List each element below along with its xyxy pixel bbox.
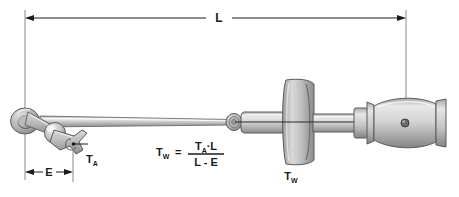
- handle-pivot-dot: [401, 119, 409, 127]
- wrench-shaft: [313, 114, 355, 132]
- extension-length-label: E: [45, 166, 52, 178]
- overall-arrow-left: [25, 15, 34, 21]
- e-arrow-left: [25, 169, 34, 175]
- torque-wrench-diagram: L: [0, 0, 459, 197]
- handle-collar: [354, 108, 368, 138]
- extension-bar: [40, 116, 232, 127]
- formula-denominator: L - E: [194, 156, 218, 168]
- handle-collar-body: [354, 108, 368, 138]
- formula-equals: =: [175, 146, 181, 158]
- handle-pivot-highlight: [402, 120, 405, 123]
- wrench-torque-label: TW: [284, 170, 298, 184]
- extension-length-dimension: E: [25, 147, 73, 182]
- torque-formula: TW = TA·L L - E: [156, 140, 224, 168]
- formula-numerator: TA·L: [195, 140, 217, 154]
- barrel-handle: [374, 98, 436, 148]
- handle-cap-left-body: [367, 102, 374, 144]
- formula-lhs: TW: [156, 146, 170, 160]
- handle-cap-right-body: [436, 99, 446, 147]
- fork-body: [50, 130, 87, 154]
- ta-leader-dot: [72, 142, 76, 146]
- applied-torque-label: TA: [86, 153, 98, 167]
- diagram-canvas: L: [0, 0, 459, 197]
- handle-end-cap-left: [367, 102, 374, 144]
- overall-arrow-right: [397, 15, 406, 21]
- open-end-fork: [50, 130, 87, 154]
- e-arrow-right: [64, 169, 73, 175]
- handle-end-cap-right: [436, 99, 446, 147]
- extension-bar-body: [40, 116, 232, 127]
- overall-length-label: L: [215, 11, 222, 25]
